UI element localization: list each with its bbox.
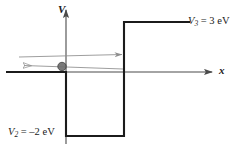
potential-well-figure: V x V3 = 3 eV V2 = –2 eV xyxy=(0,0,236,151)
v2-subscript: 2 xyxy=(14,130,18,139)
v3-value: 3 eV xyxy=(209,15,229,26)
v-axis-label: V xyxy=(58,4,65,15)
v2-equals: = xyxy=(21,126,27,137)
v3-subscript: 3 xyxy=(194,19,198,28)
potential-energy-curve xyxy=(6,22,190,136)
x-axis-label: x xyxy=(219,65,225,76)
reflected-arrow xyxy=(24,66,123,70)
v3-potential-label: V3 = 3 eV xyxy=(188,16,229,27)
incident-arrow xyxy=(19,55,122,58)
v2-potential-label: V2 = –2 eV xyxy=(8,127,55,138)
particle-dot xyxy=(58,62,66,70)
v2-value: –2 eV xyxy=(29,126,54,137)
v3-equals: = xyxy=(201,15,207,26)
